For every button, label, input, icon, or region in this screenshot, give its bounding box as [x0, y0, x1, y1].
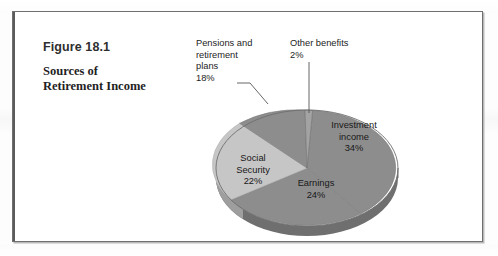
figure-title-line-1: Sources of: [43, 64, 213, 79]
figure-caption: Figure 18.1 Sources of Retirement Income: [43, 40, 213, 94]
pie-label-social-security: Social Security 22%: [222, 153, 284, 188]
callout-pensions-retirement-plans: Pensions and retirement plans 18%: [196, 38, 282, 84]
figure-number: Figure 18.1: [43, 40, 213, 54]
figure-title: Sources of Retirement Income: [43, 64, 213, 94]
pie-label-earnings: Earnings 24%: [286, 178, 346, 201]
callout-other-benefits: Other benefits 2%: [290, 38, 380, 61]
figure-page: Figure 18.1 Sources of Retirement Income: [0, 0, 498, 256]
scan-tint-bottom: [0, 244, 498, 256]
pie-label-investment-income: Investment income 34%: [318, 120, 390, 155]
figure-title-line-2: Retirement Income: [43, 79, 213, 94]
